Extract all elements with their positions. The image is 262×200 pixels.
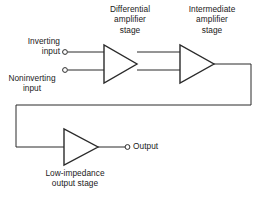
label-output-terminal: Output (133, 141, 193, 151)
terminal-noninverting-input-circle-icon[interactable] (63, 68, 68, 73)
label-intermediate-amplifier-stage: Intermediate amplifier stage (166, 4, 258, 35)
low-impedance-output-stage-symbol[interactable] (64, 129, 98, 165)
label-differential-amplifier-stage: Differential amplifier stage (84, 4, 176, 35)
intermediate-amplifier-symbol[interactable] (180, 45, 214, 83)
label-inverting-input: Inverting input (2, 36, 60, 57)
block-diagram-canvas: Differential amplifier stage Intermediat… (0, 0, 262, 200)
terminal-inverting-input-circle-icon[interactable] (63, 50, 68, 55)
label-noninverting-input: Noninverting input (0, 73, 64, 94)
differential-amplifier-symbol[interactable] (104, 45, 137, 83)
label-low-impedance-output-stage: Low-impedance output stage (16, 168, 134, 189)
terminal-output-circle-icon[interactable] (125, 145, 130, 150)
